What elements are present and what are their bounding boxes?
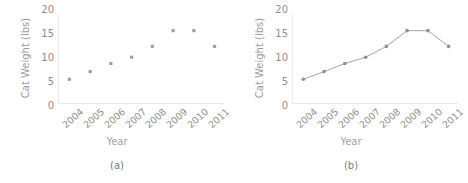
- x-tick-label: 2005: [81, 106, 106, 130]
- x-axis-title-b: Year: [234, 136, 468, 147]
- data-point: [405, 29, 409, 33]
- data-point: [68, 78, 71, 81]
- x-ticks-a: 20042005200620072008200920102011: [58, 106, 228, 140]
- y-tick-label: 10: [41, 53, 54, 63]
- data-point: [130, 56, 133, 59]
- x-tick-label: 2004: [60, 106, 85, 130]
- chart-b: Cat Weight (lbs) 20 15 10 5 0 2004200520…: [234, 0, 468, 150]
- panel-caption-a: (a): [0, 160, 234, 171]
- data-point: [109, 62, 112, 65]
- x-tick-label: 2004: [294, 106, 319, 130]
- plot-area-b: [292, 14, 458, 104]
- data-point: [426, 29, 430, 33]
- data-point: [213, 45, 216, 48]
- y-ticks-a: 20 15 10 5 0: [32, 10, 54, 106]
- x-tick-label: 2008: [377, 106, 402, 130]
- y-tick-label: 0: [48, 101, 54, 111]
- x-tick-label: 2005: [315, 106, 340, 130]
- x-axis-title-a: Year: [0, 136, 234, 147]
- scatter-series-a: [59, 14, 225, 104]
- data-point: [151, 45, 154, 48]
- x-tick-label: 2006: [102, 106, 127, 130]
- y-axis-title-a-text: Cat Weight (lbs): [20, 18, 31, 98]
- plot-area-a: [58, 14, 224, 104]
- x-tick-label: 2007: [123, 106, 148, 130]
- x-tick-label: 2011: [206, 106, 231, 130]
- data-point: [385, 45, 389, 49]
- data-point: [89, 70, 92, 73]
- x-tick-label: 2009: [164, 106, 189, 130]
- y-tick-label: 20: [41, 5, 54, 15]
- y-tick-label: 20: [275, 5, 288, 15]
- data-point: [447, 45, 451, 49]
- y-tick-label: 5: [48, 77, 54, 87]
- panel-caption-b: (b): [234, 160, 468, 171]
- x-tick-label: 2010: [419, 106, 444, 130]
- data-point: [302, 77, 306, 81]
- x-tick-label: 2011: [440, 106, 465, 130]
- line-series-b: [293, 14, 459, 104]
- figure-row: Cat Weight (lbs) 20 15 10 5 0 2004200520…: [0, 0, 468, 183]
- data-point: [192, 29, 195, 32]
- data-point: [322, 70, 326, 74]
- x-tick-label: 2009: [398, 106, 423, 130]
- y-tick-label: 5: [282, 77, 288, 87]
- y-tick-label: 0: [282, 101, 288, 111]
- x-tick-label: 2008: [143, 106, 168, 130]
- y-tick-label: 10: [275, 53, 288, 63]
- x-tick-label: 2010: [185, 106, 210, 130]
- x-ticks-b: 20042005200620072008200920102011: [292, 106, 462, 140]
- y-axis-title-b-text: Cat Weight (lbs): [254, 18, 265, 98]
- x-tick-label: 2006: [336, 106, 361, 130]
- data-point: [172, 29, 175, 32]
- data-point: [343, 62, 347, 66]
- y-ticks-b: 20 15 10 5 0: [266, 10, 288, 106]
- y-axis-title-b: Cat Weight (lbs): [252, 10, 266, 106]
- y-axis-title-a: Cat Weight (lbs): [18, 10, 32, 106]
- chart-a: Cat Weight (lbs) 20 15 10 5 0 2004200520…: [0, 0, 234, 150]
- x-tick-label: 2007: [357, 106, 382, 130]
- y-tick-label: 15: [41, 29, 54, 39]
- data-point: [364, 55, 368, 59]
- panel-a: Cat Weight (lbs) 20 15 10 5 0 2004200520…: [0, 0, 234, 183]
- y-tick-label: 15: [275, 29, 288, 39]
- panel-b: Cat Weight (lbs) 20 15 10 5 0 2004200520…: [234, 0, 468, 183]
